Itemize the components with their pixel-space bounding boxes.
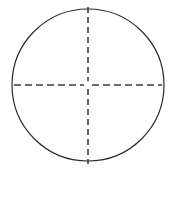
background bbox=[0, 0, 174, 211]
figure-canvas bbox=[0, 0, 174, 211]
circle-diagram bbox=[0, 0, 174, 211]
